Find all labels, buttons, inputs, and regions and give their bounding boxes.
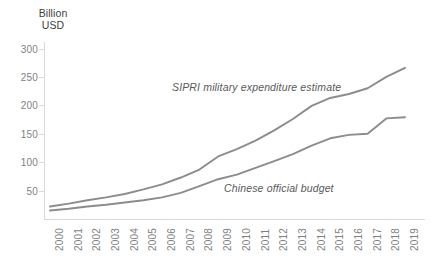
x-tick-2008: 2008: [203, 228, 214, 251]
x-tick-2004: 2004: [129, 228, 140, 251]
x-tick-2013: 2013: [297, 228, 308, 251]
x-tick-2006: 2006: [166, 228, 177, 251]
x-tick-2002: 2002: [91, 228, 102, 251]
x-axis-tick-labels: 2000200120022003200420052006200720082009…: [44, 221, 425, 261]
x-tick-2019: 2019: [409, 228, 420, 251]
x-tick-2003: 2003: [110, 228, 121, 251]
x-tick-2001: 2001: [73, 228, 84, 251]
y-tick-mark-200: [39, 105, 44, 106]
y-tick-50: 50: [6, 185, 38, 196]
y-tick-300: 300: [6, 43, 38, 54]
y-tick-200: 200: [6, 100, 38, 111]
x-tick-2000: 2000: [54, 228, 65, 251]
y-tick-250: 250: [6, 71, 38, 82]
x-tick-2015: 2015: [334, 228, 345, 251]
series-line-official: [50, 117, 405, 210]
x-axis-line: [44, 219, 425, 220]
x-tick-2009: 2009: [222, 228, 233, 251]
x-tick-2005: 2005: [147, 228, 158, 251]
x-tick-2018: 2018: [390, 228, 401, 251]
y-axis-tick-labels: 30025020015010050: [0, 0, 38, 261]
y-tick-100: 100: [6, 157, 38, 168]
y-tick-mark-300: [39, 49, 44, 50]
x-tick-2010: 2010: [241, 228, 252, 251]
y-tick-mark-150: [39, 134, 44, 135]
y-tick-150: 150: [6, 128, 38, 139]
x-tick-2011: 2011: [260, 229, 271, 251]
x-tick-2017: 2017: [372, 228, 383, 251]
x-tick-2012: 2012: [278, 228, 289, 251]
chart-container: Billion USD 30025020015010050 SIPRI mili…: [0, 0, 435, 261]
x-tick-2016: 2016: [353, 228, 364, 251]
x-tick-2014: 2014: [316, 228, 327, 251]
y-tick-mark-100: [39, 162, 44, 163]
series-label-sipri: SIPRI military expenditure estimate: [172, 81, 341, 93]
x-tick-2007: 2007: [185, 228, 196, 251]
y-tick-mark-50: [39, 191, 44, 192]
series-label-official: Chinese official budget: [224, 182, 334, 194]
y-tick-mark-250: [39, 77, 44, 78]
